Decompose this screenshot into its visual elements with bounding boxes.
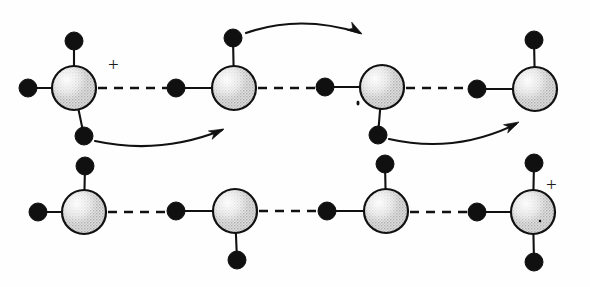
oxygen-highlight [514,68,556,110]
oxygen-highlight [53,67,95,109]
proton-transfer-arrow-2 [95,130,222,146]
oxygen-highlight [365,190,407,232]
grotthuss-mechanism-diagram [0,0,590,287]
proton-transfer-arrow-3-head [504,118,522,133]
proton-transfer-arrow-1 [246,24,360,34]
hydrogen-atom-top-1-h-top [65,32,83,50]
hydrogen-atom-top-3-h-bottom [369,126,387,144]
oxygen-highlight [213,67,255,109]
proton-transfer-arrow-3 [389,124,516,144]
hydrogen-atom-bottom-1-h-left [29,203,47,221]
charge-label-top-left: + [108,55,119,74]
hydrogen-atom-bottom-2-h-left [167,202,185,220]
hydrogen-bond-layer [98,88,468,212]
hydrogen-atom-top-3-h-left [316,78,334,96]
hydrogen-atom-bottom-3-h-top [376,155,394,173]
proton-transfer-arrow-layer [95,22,521,146]
stray-mark-bottom-4 [539,220,542,223]
hydrogen-atom-bottom-1-h-top [76,157,94,175]
hydrogen-atom-bottom-3-h-left [318,202,336,220]
oxygen-highlight [214,190,256,232]
covalent-bond-layer [35,45,535,255]
hydrogen-atom-bottom-4-h-top [525,154,543,172]
hydrogen-atom-bottom-2-h-bottom [228,251,246,269]
hydrogen-atom-top-2-h-left [167,79,185,97]
hydrogen-atom-layer [19,29,543,271]
oxygen-highlight [512,191,554,233]
oxygen-highlight [361,66,403,108]
charge-label-bottom-right: + [546,175,557,194]
oxygen-highlight [63,191,105,233]
hydrogen-atom-top-2-h-top [224,29,242,47]
hydrogen-atom-bottom-4-h-left [468,203,486,221]
hydrogen-atom-top-4-h-left [468,80,486,98]
covalent-bond [379,108,381,128]
stray-mark-top-3 [357,101,360,106]
proton-transfer-arrow-2-head [208,125,225,140]
proton-transfer-arrow-1-head [347,22,365,38]
hydrogen-atom-bottom-4-h-bottom [525,253,543,271]
hydrogen-atom-top-1-h-left [19,79,37,97]
covalent-bond [78,109,82,130]
covalent-bond [236,232,237,253]
hydrogen-atom-top-1-h-bottom [75,127,93,145]
hydrogen-atom-top-4-h-top [525,31,543,49]
diagram-canvas: + + [0,0,590,287]
